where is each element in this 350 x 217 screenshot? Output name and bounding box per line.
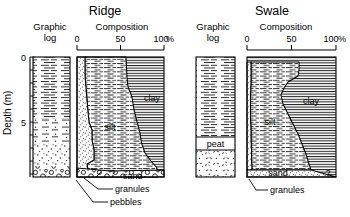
graphic-log-header-swale-line1: Graphic [196,21,230,32]
log-unit-gravel-ridge [33,166,70,177]
graphic-log-header-ridge-line1: Graphic [33,21,67,32]
composition-tick-100-swale: 100 [323,34,338,44]
composition-tick-0-ridge: 0 [74,34,79,44]
series-label-silt-swale: silt [265,117,276,127]
callout-granules-swale: granules [270,185,305,195]
figure-root: Depth (m) 0 5 Ridge Graphic log Composit… [0,0,350,217]
panel-title-swale: Swale [255,4,289,18]
callout-granules-ridge: granules [115,184,150,194]
log-unit-mud-swale [196,57,235,137]
log-unit-sand-ridge [33,143,70,166]
composition-plot-ridge [77,57,164,177]
log-label-peat-swale: peat [207,139,225,149]
composition-tick-50-ridge: 50 [115,34,125,44]
composition-header-ridge: Composition [96,21,149,32]
composition-tick-0-swale: 0 [244,34,249,44]
callout-sand-ridge: sand [123,171,143,181]
depth-tick-5: 5 [21,118,26,128]
composition-header-swale: Composition [260,21,313,32]
series-label-silt-ridge: silt [105,122,116,132]
graphic-log-header-ridge-line2: log [44,32,57,43]
sediment-composition-figure: Depth (m) 0 5 Ridge Graphic log Composit… [0,0,350,217]
composition-tick-50-swale: 50 [286,34,296,44]
graphic-log-swale: peat [196,57,235,177]
series-label-clay-ridge: clay [144,93,161,103]
series-label-clay-swale: clay [303,96,320,106]
depth-tick-0: 0 [21,53,26,63]
composition-plot-swale [247,57,336,177]
query-mark-swale: ? [325,168,330,178]
log-unit-sand-swale [196,150,235,177]
depth-axis-label: Depth (m) [2,91,13,135]
callout-pebbles-ridge: pebbles [110,197,142,207]
composition-unit-swale: % [338,34,346,44]
series-label-sand-swale: sand [268,168,288,178]
graphic-log-ridge [33,57,70,177]
query-mark-ridge: ? [110,168,115,178]
panel-title-ridge: Ridge [89,4,122,18]
composition-unit-ridge: % [166,34,174,44]
log-unit-mud-ridge [33,57,70,119]
graphic-log-header-swale-line2: log [207,32,220,43]
log-unit-sandy-mud-ridge [33,119,70,143]
